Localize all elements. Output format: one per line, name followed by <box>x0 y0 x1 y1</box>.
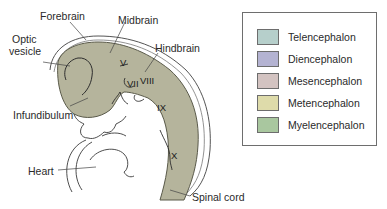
label-hindbrain: Hindbrain <box>155 42 200 54</box>
swatch-metencephalon <box>257 95 279 111</box>
legend-label: Telencephalon <box>288 31 356 43</box>
embryo-brain-diagram: Forebrain Midbrain Optic vesicle Hindbra… <box>0 0 387 209</box>
legend-item-diencephalon: Diencephalon <box>257 51 352 67</box>
legend-item-myelencephalon: Myelencephalon <box>257 117 364 133</box>
swatch-myelencephalon <box>257 117 279 133</box>
nerve-vii: VII <box>127 79 139 89</box>
legend-item-metencephalon: Metencephalon <box>257 95 360 111</box>
nerve-ix: IX <box>157 103 166 113</box>
label-midbrain: Midbrain <box>118 14 158 26</box>
legend-label: Mesencephalon <box>288 75 362 87</box>
legend-label: Diencephalon <box>288 53 352 65</box>
swatch-mesencephalon <box>257 73 279 89</box>
legend-label: Metencephalon <box>288 97 360 109</box>
label-infundibulum: Infundibulum <box>13 109 73 121</box>
nerve-x: X <box>171 151 177 161</box>
label-optic-vesicle-line2: vesicle <box>9 45 41 57</box>
label-heart: Heart <box>28 165 54 177</box>
legend-label: Myelencephalon <box>288 119 364 131</box>
nerve-v: V <box>120 58 126 68</box>
swatch-diencephalon <box>257 51 279 67</box>
nerve-viii: VIII <box>140 76 154 86</box>
label-optic-vesicle-line1: Optic <box>12 33 37 45</box>
legend: Telencephalon Diencephalon Mesencephalon… <box>242 12 377 146</box>
legend-item-telencephalon: Telencephalon <box>257 29 356 45</box>
label-forebrain: Forebrain <box>40 10 85 22</box>
legend-item-mesencephalon: Mesencephalon <box>257 73 362 89</box>
swatch-telencephalon <box>257 29 279 45</box>
label-spinal-cord: Spinal cord <box>192 191 245 203</box>
